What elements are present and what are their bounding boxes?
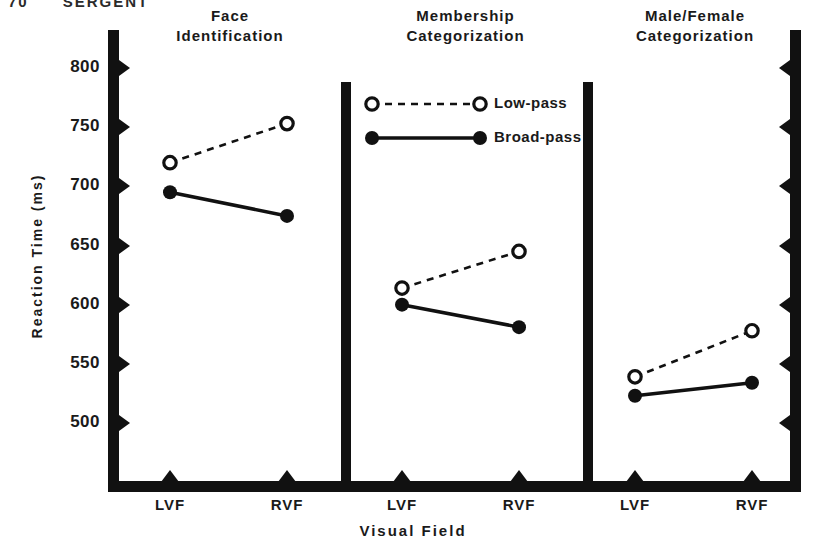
panel-title-2-line2: Categorization: [358, 26, 573, 46]
point-p2-low-pass-rvf: [513, 245, 525, 257]
legend-label-broad-pass: Broad-pass: [494, 128, 582, 145]
y-tick-label-750: 750: [38, 116, 100, 136]
series-p3-low-pass: [629, 325, 758, 384]
panel-divider-1: [341, 82, 351, 485]
y-tick-label-700: 700: [38, 175, 100, 195]
point-p3-broad-pass-rvf: [745, 376, 759, 390]
x-tick-p3-lvf: [626, 470, 644, 482]
point-p3-broad-pass-lvf: [628, 389, 642, 403]
y-tick-right-700: [779, 178, 790, 194]
x-tick-label-p2-lvf: LVF: [367, 496, 437, 513]
y-tick-right-750: [779, 119, 790, 135]
x-tick-p2-lvf: [393, 470, 411, 482]
panel-divider-2: [583, 82, 593, 485]
x-tick-label-p3-lvf: LVF: [600, 496, 670, 513]
point-p2-low-pass-lvf: [396, 282, 408, 294]
y-tick-left-600: [119, 297, 130, 313]
series-p2-low-pass: [396, 245, 525, 294]
legend: Low-pass Broad-pass: [362, 92, 577, 160]
panel-title-3: Male/Female Categorization: [595, 6, 795, 46]
panel-title-2: Membership Categorization: [358, 6, 573, 46]
x-tick-label-p1-lvf: LVF: [135, 496, 205, 513]
y-tick-left-500: [119, 415, 130, 431]
point-p1-broad-pass-lvf: [163, 185, 177, 199]
y-tick-left-700: [119, 178, 130, 194]
panel-title-1: Face Identification: [125, 6, 335, 46]
point-p3-low-pass-rvf: [746, 325, 758, 337]
y-axis-title: Reaction Time (ms): [29, 141, 45, 371]
plot-area: [0, 0, 826, 548]
series-p1-broad-pass: [163, 185, 294, 223]
x-tick-label-p1-rvf: RVF: [252, 496, 322, 513]
x-tick-p2-rvf: [510, 470, 528, 482]
legend-label-low-pass: Low-pass: [494, 94, 567, 111]
figure-page: 70SERGENT 800750700650600550500 LVFRVFLV…: [0, 0, 826, 548]
y-tick-left-550: [119, 356, 130, 372]
y-tick-label-650: 650: [38, 235, 100, 255]
x-tick-p3-rvf: [743, 470, 761, 482]
y-axis-right: [790, 30, 801, 488]
y-tick-label-550: 550: [38, 353, 100, 373]
y-tick-left-750: [119, 119, 130, 135]
y-tick-left-650: [119, 238, 130, 254]
x-tick-label-p2-rvf: RVF: [484, 496, 554, 513]
panel-title-1-line1: Face: [125, 6, 335, 26]
series-p3-broad-pass: [628, 376, 759, 403]
y-tick-right-650: [779, 238, 790, 254]
legend-item-low-pass: Low-pass: [362, 92, 577, 126]
legend-item-broad-pass: Broad-pass: [362, 126, 577, 160]
series-p2-broad-pass: [395, 298, 526, 334]
y-tick-label-600: 600: [38, 294, 100, 314]
y-axis-left: [108, 30, 119, 488]
point-p1-broad-pass-rvf: [280, 209, 294, 223]
point-p2-broad-pass-rvf: [512, 320, 526, 334]
x-tick-label-p3-rvf: RVF: [717, 496, 787, 513]
y-tick-right-800: [779, 60, 790, 76]
y-tick-right-500: [779, 415, 790, 431]
page-number: 70: [8, 0, 29, 10]
panel-title-2-line1: Membership: [358, 6, 573, 26]
point-p1-low-pass-lvf: [164, 156, 176, 168]
panel-title-3-line1: Male/Female: [595, 6, 795, 26]
y-tick-right-600: [779, 297, 790, 313]
y-tick-label-500: 500: [38, 412, 100, 432]
x-axis: [108, 481, 801, 492]
series-p1-low-pass: [164, 117, 293, 168]
point-p3-low-pass-lvf: [629, 371, 641, 383]
point-p2-broad-pass-lvf: [395, 298, 409, 312]
x-tick-p1-rvf: [278, 470, 296, 482]
x-tick-p1-lvf: [161, 470, 179, 482]
y-tick-label-800: 800: [38, 57, 100, 77]
panel-title-1-line2: Identification: [125, 26, 335, 46]
legend-swatch-low-pass: [362, 92, 490, 122]
legend-swatch-broad-pass: [362, 126, 490, 156]
y-tick-left-800: [119, 60, 130, 76]
x-axis-title: Visual Field: [0, 522, 826, 539]
point-p1-low-pass-rvf: [281, 117, 293, 129]
y-tick-right-550: [779, 356, 790, 372]
panel-title-3-line2: Categorization: [595, 26, 795, 46]
